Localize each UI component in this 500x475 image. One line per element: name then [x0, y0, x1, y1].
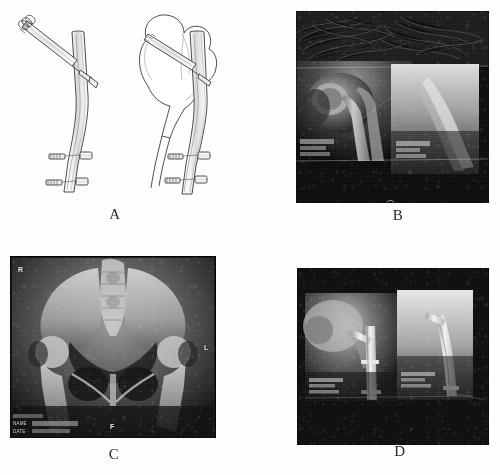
overlay-value-smudge-name [32, 421, 78, 426]
panel-c-pelvis-radiograph: R L F NAME DATE [10, 256, 216, 438]
panel-label-a: A [100, 206, 130, 223]
film-speckle-overlay [296, 11, 489, 203]
figure-root: R L F NAME DATE [0, 0, 500, 475]
cephalomedullary-lag-screw [17, 13, 98, 88]
implant-only-view [17, 13, 98, 192]
scan-artifact-mark [386, 200, 395, 205]
study-date-overlay: DATE [13, 429, 25, 435]
panel-d-postoperative-radiographs [297, 268, 489, 445]
panel-b-preoperative-radiographs [296, 11, 489, 203]
panel-label-b: B [383, 207, 413, 224]
panel-label-d: D [385, 443, 415, 460]
film-speckle-overlay [10, 256, 216, 438]
film-speckle-overlay [297, 268, 489, 445]
panel-label-c: C [99, 446, 129, 463]
panel-a-line-drawing [2, 4, 260, 204]
bottom-orientation-marker: F [110, 423, 114, 430]
left-side-marker: L [204, 344, 208, 351]
implant-in-femur-view [139, 15, 216, 194]
implant-line-drawing [2, 4, 260, 204]
patient-name-overlay: NAME [13, 421, 27, 427]
right-side-marker: R [18, 266, 23, 273]
overlay-value-smudge-extra [13, 414, 43, 418]
overlay-value-smudge-date [32, 429, 70, 433]
